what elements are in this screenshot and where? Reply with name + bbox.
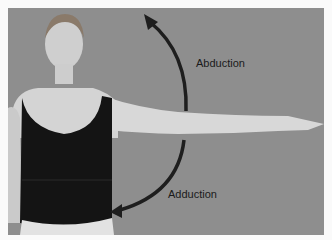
adduction-label: Adduction [168,188,217,200]
figure-illustration [8,8,324,235]
abduction-label: Abduction [196,57,245,69]
person [8,14,324,235]
abduction-arrow-icon [144,14,186,111]
adduction-arrow-icon [110,140,184,218]
anatomy-photo: Abduction Adduction [8,8,324,235]
